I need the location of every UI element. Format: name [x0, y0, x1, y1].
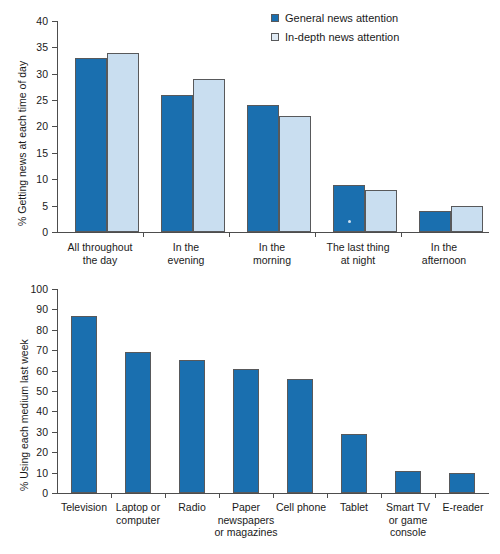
- category-label-line: console: [374, 526, 442, 539]
- category-label-line: In the: [229, 241, 315, 254]
- y-tick-0: [52, 232, 57, 233]
- category-label-all-day: All throughout the day: [57, 241, 143, 266]
- category-label-line: E-reader: [432, 501, 494, 514]
- y-tick-label-b-60: 60: [18, 366, 48, 377]
- category-label-line: evening: [143, 254, 229, 267]
- bar-general-evening: [161, 95, 193, 232]
- category-label-morning: In the morning: [229, 241, 315, 266]
- y-tick-label-25: 25: [20, 95, 48, 106]
- category-label-evening: In the evening: [143, 241, 229, 266]
- y-tick-label-30: 30: [20, 69, 48, 80]
- y-tick-label-b-70: 70: [18, 345, 48, 356]
- y-tick-label-b-100: 100: [18, 284, 48, 295]
- bar-indepth-all-day: [107, 53, 139, 232]
- bar-e-reader: [449, 473, 475, 493]
- x-tick-b-5: [327, 493, 328, 498]
- category-label-line: computer: [106, 514, 170, 527]
- x-tick-3: [315, 232, 316, 237]
- bar-indepth-afternoon: [451, 206, 483, 232]
- plot-area-bottom: [57, 289, 489, 493]
- y-tick-label-35: 35: [20, 42, 48, 53]
- category-label-line: In the: [401, 241, 487, 254]
- category-label-line: newspapers: [205, 514, 287, 527]
- category-label-line: at night: [315, 254, 401, 267]
- category-label-line: afternoon: [401, 254, 487, 267]
- bar-general-morning: [247, 105, 279, 232]
- bar-indepth-last-thing-at-night: [365, 190, 397, 232]
- bar-paper-newspapers-or-magazines: [233, 369, 259, 493]
- y-tick-label-40: 40: [20, 16, 48, 27]
- x-tick-b-3: [219, 493, 220, 498]
- y-tick-label-b-30: 30: [18, 427, 48, 438]
- y-tick-label-b-40: 40: [18, 406, 48, 417]
- bar-indepth-evening: [193, 79, 225, 232]
- bar-general-afternoon: [419, 211, 451, 232]
- chart-medium-last-week: % Using each medium last week 0 10 20 30…: [0, 280, 500, 554]
- y-tick-label-b-10: 10: [18, 468, 48, 479]
- category-label-line: the day: [57, 254, 143, 267]
- bar-laptop-or-computer: [125, 352, 151, 493]
- chart-news-time-of-day: General news attention In-depth news att…: [0, 0, 500, 280]
- category-label-e-reader: E-reader: [432, 501, 494, 514]
- category-label-line: morning: [229, 254, 315, 267]
- x-tick-2: [229, 232, 230, 237]
- x-tick-b-1: [111, 493, 112, 498]
- y-tick-label-b-90: 90: [18, 304, 48, 315]
- bar-cell-phone: [287, 379, 313, 493]
- x-tick-b-7: [435, 493, 436, 498]
- y-tick-label-10: 10: [20, 174, 48, 185]
- y-tick-label-5: 5: [20, 201, 48, 212]
- y-tick-label-b-80: 80: [18, 325, 48, 336]
- category-label-line: or game: [374, 514, 442, 527]
- bar-radio: [179, 360, 205, 493]
- bar-tablet: [341, 434, 367, 493]
- bar-general-all-day: [75, 58, 107, 232]
- x-tick-b-4: [273, 493, 274, 498]
- x-tick-1: [143, 232, 144, 237]
- y-tick-label-15: 15: [20, 148, 48, 159]
- y-tick-label-b-20: 20: [18, 447, 48, 458]
- y-tick-label-20: 20: [20, 121, 48, 132]
- y-tick-b-0: [52, 493, 57, 494]
- y-tick-label-b-50: 50: [18, 386, 48, 397]
- plot-area-top: [57, 21, 489, 232]
- x-tick-b-2: [165, 493, 166, 498]
- category-label-line: In the: [143, 241, 229, 254]
- y-tick-label-0: 0: [20, 227, 48, 238]
- bar-indepth-morning: [279, 116, 311, 232]
- bar-television: [71, 316, 97, 494]
- category-label-line: All throughout: [57, 241, 143, 254]
- y-tick-label-b-0: 0: [18, 488, 48, 499]
- x-tick-4: [401, 232, 402, 237]
- bar-general-last-thing-at-night: [333, 185, 365, 233]
- asterisk-annotation-icon: [348, 220, 351, 223]
- category-label-afternoon: In the afternoon: [401, 241, 487, 266]
- category-label-last-thing-at-night: The last thing at night: [315, 241, 401, 266]
- category-label-line: The last thing: [315, 241, 401, 254]
- x-axis-line-top: [57, 232, 489, 233]
- bar-smart-tv-or-game-console: [395, 471, 421, 493]
- x-tick-b-6: [381, 493, 382, 498]
- category-label-line: or magazines: [200, 526, 292, 539]
